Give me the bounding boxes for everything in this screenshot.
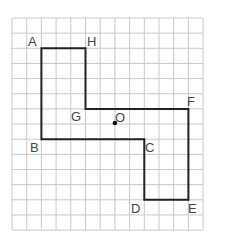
label-o: O (115, 110, 125, 125)
label-a: A (28, 34, 37, 49)
label-f: F (187, 94, 195, 109)
label-c: C (145, 140, 154, 155)
label-d: D (131, 201, 140, 216)
label-e: E (188, 201, 197, 216)
label-g: G (71, 109, 81, 124)
grid-diagram: A H G O F B C D E (0, 0, 226, 241)
label-b: B (30, 140, 39, 155)
label-h: H (87, 34, 96, 49)
